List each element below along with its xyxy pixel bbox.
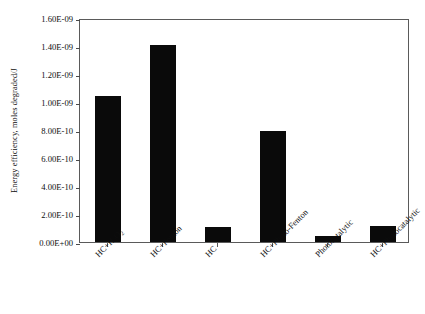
- y-tick-label: 1.60E-09: [41, 14, 73, 24]
- y-tick-mark: [76, 216, 80, 217]
- bar: [260, 131, 286, 242]
- y-tick-mark: [76, 244, 80, 245]
- plot-inner: 0.00E+002.00E-104.00E-106.00E-108.00E-10…: [80, 20, 408, 242]
- y-tick-mark: [76, 132, 80, 133]
- y-tick-label: 1.00E-09: [41, 98, 73, 108]
- bar: [95, 96, 121, 242]
- y-tick-mark: [76, 160, 80, 161]
- y-tick-mark: [76, 188, 80, 189]
- bar: [205, 227, 231, 242]
- y-tick-mark: [76, 20, 80, 21]
- y-tick-label: 2.00E-10: [41, 210, 73, 220]
- y-tick-mark: [76, 48, 80, 49]
- y-tick-label: 1.20E-09: [41, 70, 73, 80]
- x-axis-tick-mark: [217, 243, 218, 247]
- plot-area: 0.00E+002.00E-104.00E-106.00E-108.00E-10…: [79, 19, 409, 243]
- y-tick-label: 1.40E-09: [41, 42, 73, 52]
- y-axis-title: Energy efficiency, moles degraded/J: [10, 31, 19, 231]
- bar: [150, 45, 176, 242]
- y-tick-label: 4.00E-10: [41, 182, 73, 192]
- y-tick-label: 8.00E-10: [41, 126, 73, 136]
- y-tick-mark: [76, 76, 80, 77]
- y-tick-mark: [76, 104, 80, 105]
- bar-chart-figure: Energy efficiency, moles degraded/J 0.00…: [0, 0, 425, 314]
- y-tick-label: 0.00E+00: [39, 238, 73, 248]
- y-tick-label: 6.00E-10: [41, 154, 73, 164]
